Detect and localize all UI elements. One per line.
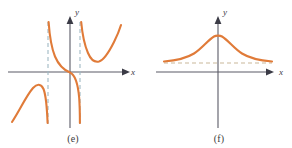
panel-e-caption: (e) [0,133,146,144]
figure-root: x y (e) x y (f) [0,0,292,148]
x-axis-arrow [266,69,274,76]
y-axis-arrow [215,16,222,24]
panel-e-plot: x y [0,0,146,148]
x-axis-arrow [122,69,130,76]
curve-branch-left [12,85,48,123]
panel-f-plot: x y [146,0,292,148]
y-axis-label: y [222,7,227,17]
y-axis-arrow [67,16,74,24]
panel-e: x y (e) [0,0,146,148]
x-axis-label: x [278,67,283,77]
panel-f-caption: (f) [146,133,292,144]
panel-f: x y (f) [146,0,292,148]
y-axis-label: y [74,7,79,17]
x-axis-label: x [130,67,135,77]
curve-branch-right [81,22,121,62]
